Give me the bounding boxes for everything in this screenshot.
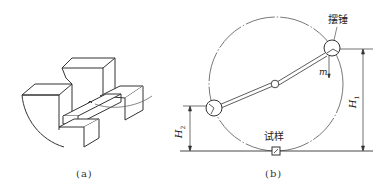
h1-symbol: H [347, 100, 358, 109]
caption-b: (b) [265, 168, 282, 179]
hammer-label: 摆锤 [328, 14, 348, 26]
specimen-icon [272, 147, 280, 155]
h2-label: H2 [173, 126, 189, 139]
specimen-label: 试样 [264, 131, 284, 143]
caption-a: (a) [76, 168, 93, 179]
h2-symbol: H [173, 130, 184, 139]
hammer-initial-icon [324, 40, 340, 56]
mass-arrow [328, 56, 330, 78]
h1-label: H1 [347, 96, 363, 109]
diagram-canvas [0, 0, 387, 193]
pivot-icon [271, 80, 279, 88]
h1-subscript: 1 [353, 96, 360, 100]
h2-subscript: 2 [179, 126, 186, 130]
hammer-final-icon [206, 100, 222, 116]
back-anvil-block [62, 58, 115, 68]
left-support-block [22, 84, 72, 95]
mass-label: m [319, 66, 328, 78]
panel-a-drawing [22, 58, 152, 147]
